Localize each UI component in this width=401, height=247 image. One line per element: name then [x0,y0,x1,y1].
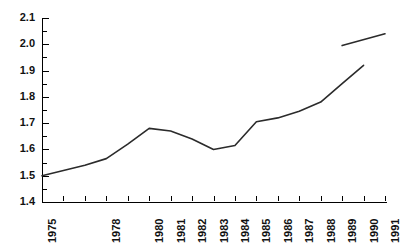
x-tick-label-1983: 1983 [219,219,230,243]
series-line-upper-segment [342,34,385,46]
y-tick-label-1.5: 1.5 [0,170,35,181]
x-tick-label-1982: 1982 [197,219,208,243]
y-tick-label-2.0: 2.0 [0,38,35,49]
chart-ticks [43,19,386,203]
y-tick-label-1.6: 1.6 [0,143,35,154]
y-tick-label-2.1: 2.1 [0,12,35,23]
x-tick-label-1980: 1980 [154,219,165,243]
x-tick-label-1988: 1988 [326,219,337,243]
series-line-main [42,65,364,175]
y-tick-label-1.4: 1.4 [0,196,35,207]
x-tick-label-1985: 1985 [261,219,272,243]
x-tick-label-1989: 1989 [347,219,358,243]
x-tick-label-1987: 1987 [304,219,315,243]
chart-axes [42,18,387,203]
x-tick-label-1991: 1991 [390,219,401,243]
y-tick-label-1.7: 1.7 [0,117,35,128]
chart-series [42,34,385,176]
x-tick-label-1981: 1981 [176,219,187,243]
x-tick-label-1984: 1984 [240,219,251,243]
x-tick-label-1975: 1975 [47,219,58,243]
x-tick-label-1986: 1986 [283,219,294,243]
x-tick-label-1978: 1978 [111,219,122,243]
x-tick-label-1990: 1990 [369,219,380,243]
y-tick-label-1.9: 1.9 [0,65,35,76]
y-tick-label-1.8: 1.8 [0,91,35,102]
